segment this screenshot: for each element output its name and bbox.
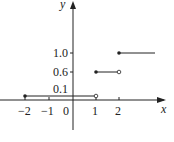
closed-point-icon (23, 94, 27, 98)
step-segment-1.0 (117, 51, 155, 55)
x-tick-label: 1 (92, 104, 98, 118)
x-axis-label: x (160, 102, 167, 116)
closed-point-icon (94, 70, 98, 74)
open-point-icon (94, 94, 98, 98)
closed-point-icon (117, 51, 121, 55)
y-axis-arrow-icon (70, 1, 76, 9)
open-point-icon (117, 70, 121, 74)
step-segment-0.6 (94, 70, 121, 74)
x-tick-label: 0 (63, 104, 69, 118)
x-tick-label: 2 (115, 104, 121, 118)
y-tick-label: 0.1 (53, 82, 68, 96)
x-tick-label: −2 (18, 104, 31, 118)
x-tick-label: −1 (41, 104, 54, 118)
step-chart: x y −2 −1 0 1 2 1.0 0.6 0.1 (0, 0, 174, 142)
y-tick-label: 1.0 (53, 46, 68, 60)
y-tick-label: 0.6 (53, 65, 68, 79)
y-axis-label: y (59, 0, 66, 11)
